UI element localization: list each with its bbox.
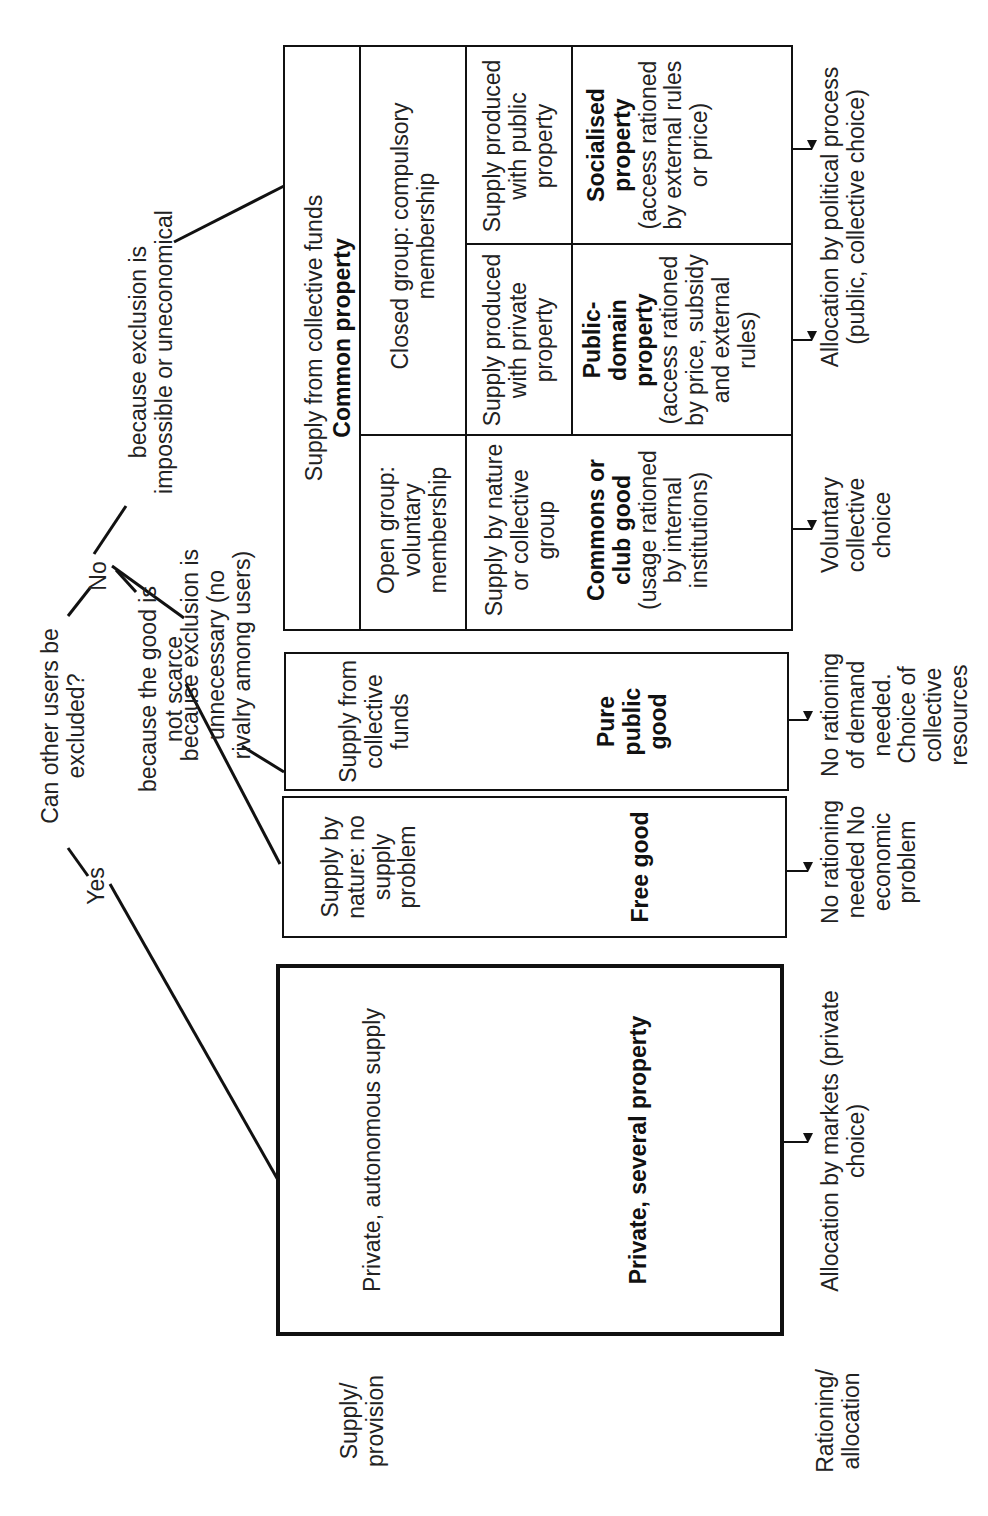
answer-no: No (86, 551, 112, 601)
socialised-supply-text: Supply produced with public property (480, 56, 557, 236)
row-label-rationing: Rationing/ allocation (813, 1366, 865, 1476)
commons-cell: Commons or club good (usage rationed by … (584, 440, 713, 620)
row-label-supply: Supply/ provision (337, 1366, 389, 1476)
commons-detail: (usage rationed by internal institutions… (636, 440, 713, 620)
common-header-name: Common property (330, 46, 356, 630)
pure-public-allocation: No rationing of demand needed. Choice of… (818, 650, 973, 780)
box-private (278, 966, 782, 1334)
free-good-supply-text: Supply by nature: no supply problem (318, 803, 421, 931)
pure-public-supply-text: Supply from collective funds (336, 659, 413, 784)
pure-public-name: Pure public good (594, 679, 671, 764)
question-label: Can other users be excluded? (38, 576, 90, 876)
common-allocation: Allocation by political process (public,… (818, 52, 870, 382)
socialised-name: Socialised property (584, 50, 636, 240)
public-domain-name: Public-domain property (580, 250, 657, 430)
private-allocation: Allocation by markets (private choice) (818, 986, 870, 1296)
socialised-detail: (access rationed by external rules or pr… (636, 50, 713, 240)
public-domain-supply-text: Supply produced with private property (480, 250, 557, 430)
commons-name: Commons or club good (584, 440, 636, 620)
diagram-canvas: Can other users be excluded? Yes No beca… (0, 0, 988, 1516)
reason-impossible: because exclusion is impossible or uneco… (126, 202, 178, 502)
answer-yes: Yes (84, 856, 110, 916)
commons-supply-text: Supply by nature or collective group (482, 440, 559, 620)
free-good-allocation: No rationing needed No economic problem (818, 787, 921, 937)
common-closed-group: Closed group: compulsory membership (388, 66, 440, 406)
free-good-name: Free good (628, 797, 654, 937)
private-supply-text: Private, autonomous supply (360, 966, 386, 1334)
private-name: Private, several property (626, 966, 652, 1334)
edge-impossible-common (174, 186, 284, 242)
reason-unnecessary: because exclusion is unnecessary (no riv… (178, 540, 255, 770)
common-header-supply: Supply from collective funds (302, 46, 328, 630)
public-domain-cell: Public-domain property (access rationed … (580, 250, 760, 430)
commons-allocation: Voluntary collective choice (818, 450, 895, 600)
edge-yes-private (110, 884, 278, 1180)
common-open-group: Open group: voluntary membership (374, 450, 451, 610)
edge-no-impossible (94, 506, 126, 554)
socialised-cell: Socialised property (access rationed by … (584, 50, 713, 240)
public-domain-detail: (access rationed by price, subsidy and e… (657, 250, 760, 430)
